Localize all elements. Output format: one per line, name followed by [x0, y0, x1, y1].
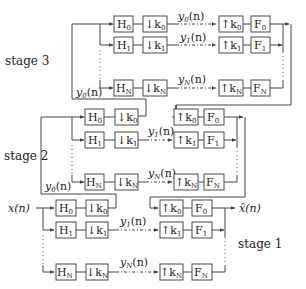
output-xhat-label: x̂(n) — [239, 202, 261, 215]
stage1-y1-label: y1(n) — [119, 215, 146, 229]
stage3-yN-label: yN(n) — [177, 73, 206, 87]
input-x-label: x(n) — [8, 202, 30, 215]
stage3-branch-1 — [100, 24, 113, 45]
stage-3: H0 ↓k0 y0(n) ↑k0 F0 H1 ↓k1 y1(n) ↑k1 F1 … — [5, 10, 291, 113]
stage3-input-y0-label: y0(n) — [75, 86, 102, 100]
stage1-yN-label: yN(n) — [119, 256, 148, 270]
filter-bank-diagram: H0 ↓k0 y0(n) ↑k0 F0 H1 ↓k1 y1(n) ↑k1 F1 … — [0, 0, 306, 289]
stage-3-label: stage 3 — [5, 54, 49, 68]
stage2-y1-label: y1(n) — [147, 125, 174, 139]
stage-1-label: stage 1 — [238, 237, 282, 251]
stage2-input-y0-label: y0(n) — [44, 180, 71, 194]
stage3-y0-label: y0(n) — [177, 10, 204, 24]
stage-2: H0 ↓k0 ↑k0 F0 H1 ↓k1 y1(n) ↑k1 F1 HN ↓kN — [4, 97, 245, 208]
stage3-y1-label: y1(n) — [179, 31, 206, 45]
stage-2-label: stage 2 — [4, 149, 48, 163]
stage2-yN-label: yN(n) — [147, 167, 176, 181]
stage-1: x(n) H0 ↓k0 ↑k0 F0 x̂(n) H1 ↓k1 y1(n) ↑k… — [8, 193, 282, 280]
